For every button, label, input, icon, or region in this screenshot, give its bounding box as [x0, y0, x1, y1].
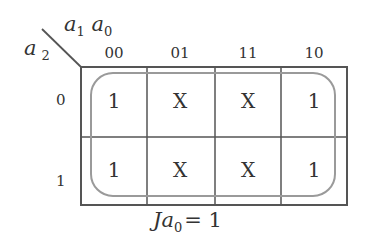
kmap-cell: X — [147, 89, 213, 113]
kmap-graphics — [0, 0, 365, 242]
row-header: 0 — [56, 91, 66, 109]
kmap-cell: X — [215, 158, 281, 182]
column-header: 00 — [81, 44, 147, 62]
kmap-cell: 1 — [81, 158, 147, 182]
kmap-cell: 1 — [81, 89, 147, 113]
equation-caption: Ja0= 1 — [153, 208, 222, 235]
column-variables-label: a1 a0 — [64, 12, 112, 39]
column-header: 01 — [147, 44, 213, 62]
row-header: 1 — [56, 172, 66, 190]
kmap-cell: X — [215, 89, 281, 113]
kmap-cell: 1 — [281, 158, 347, 182]
kmap-cell: X — [147, 158, 213, 182]
column-header: 10 — [281, 44, 347, 62]
kmap-cell: 1 — [281, 89, 347, 113]
column-header: 11 — [215, 44, 281, 62]
grid-border — [81, 67, 347, 205]
row-variable-label: a2 — [24, 36, 50, 63]
